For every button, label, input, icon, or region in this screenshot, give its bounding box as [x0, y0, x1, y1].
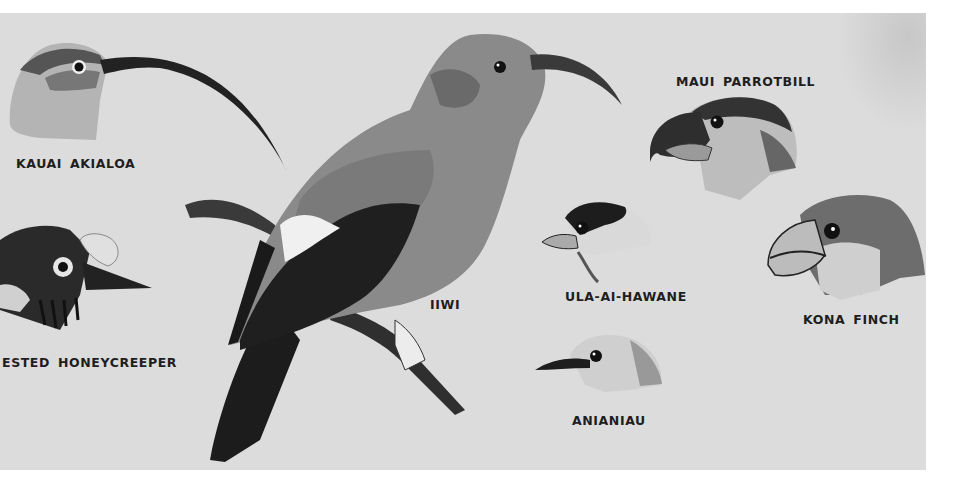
maui-parrotbill-illustration [650, 97, 797, 200]
illustration-plate: KAUAI AKIALOA ESTED HONEYCREEPER IIWI MA… [0, 13, 926, 470]
label-ula-ai-hawane: ULA-AI-HAWANE [565, 289, 687, 304]
label-maui-parrotbill: MAUI PARROTBILL [676, 74, 815, 89]
kona-finch-illustration [768, 195, 925, 300]
label-kona-finch: KONA FINCH [803, 312, 900, 327]
label-iiwi: IIWI [430, 297, 460, 312]
kauai-akialoa-illustration [10, 43, 286, 170]
label-kauai-akialoa: KAUAI AKIALOA [16, 156, 135, 171]
label-anianiau: ANIANIAU [572, 413, 646, 428]
label-crested-honeycreeper: ESTED HONEYCREEPER [2, 355, 177, 370]
ula-ai-hawane-illustration [542, 201, 651, 282]
anianiau-illustration [535, 335, 662, 392]
crested-honeycreeper-illustration [0, 226, 152, 330]
